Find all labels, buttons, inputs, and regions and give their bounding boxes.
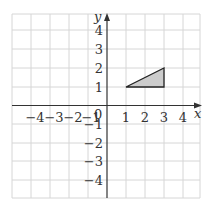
svg-text:4: 4 [179, 110, 187, 125]
x-tick-labels: −4 −3 −2 −1 1 2 3 4 [25, 110, 187, 125]
svg-text:3: 3 [160, 110, 168, 125]
svg-text:3: 3 [95, 42, 103, 57]
svg-text:−3: −3 [44, 110, 63, 125]
svg-text:−4: −4 [25, 110, 44, 125]
y-axis-label: y [93, 9, 102, 24]
svg-text:1: 1 [95, 80, 103, 95]
svg-text:2: 2 [95, 61, 103, 76]
svg-text:1: 1 [122, 110, 130, 125]
svg-text:−1: −1 [84, 117, 103, 132]
svg-text:−3: −3 [84, 154, 103, 169]
x-axis-label: x [194, 106, 202, 121]
coordinate-grid: y x 0 −4 −3 −2 −1 1 2 3 4 4 3 2 1 −1 −2 … [0, 0, 209, 208]
axes [12, 17, 198, 198]
svg-text:4: 4 [95, 23, 103, 38]
svg-text:−4: −4 [84, 173, 103, 188]
svg-text:−2: −2 [63, 110, 82, 125]
svg-text:2: 2 [141, 110, 149, 125]
svg-text:−2: −2 [84, 136, 103, 151]
